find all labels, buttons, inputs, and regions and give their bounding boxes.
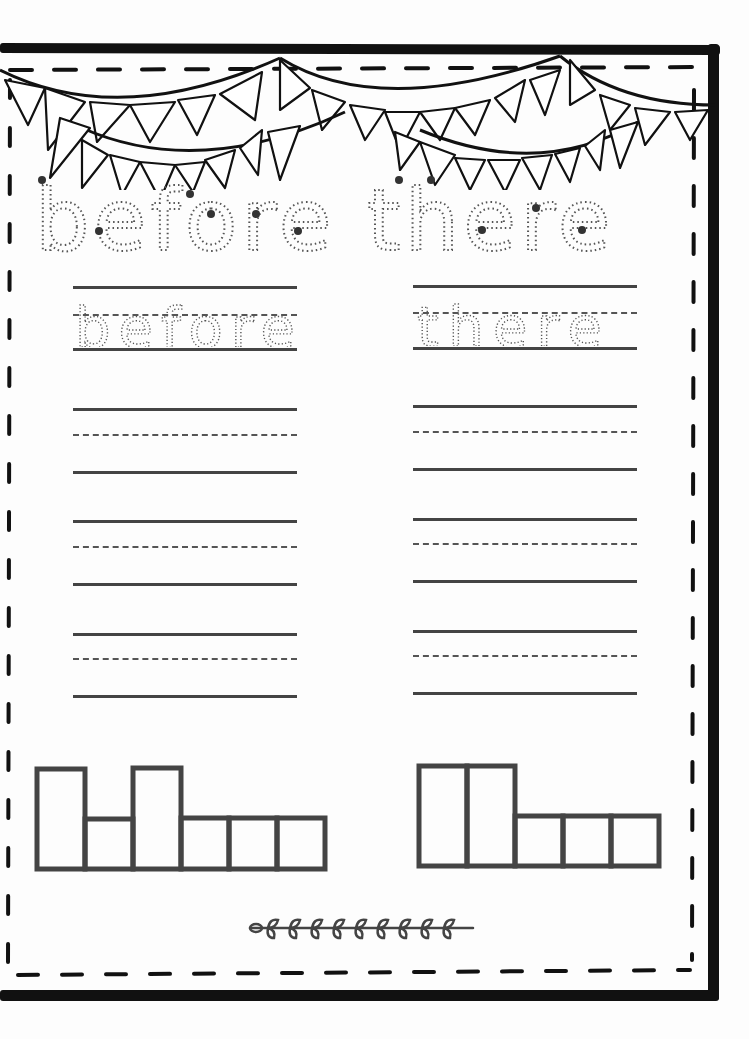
letter-box-tall[interactable] <box>467 766 515 866</box>
trace-base-line <box>73 348 297 351</box>
letter-box-short[interactable] <box>229 818 277 869</box>
trace-word-there: there <box>413 284 637 346</box>
practice-base-line <box>413 580 637 583</box>
practice-top-line <box>73 633 297 636</box>
letter-box-short[interactable] <box>515 816 563 866</box>
trace-title-text: before there <box>35 170 615 268</box>
trace-base-line <box>413 347 637 350</box>
practice-base-line <box>413 692 637 695</box>
letter-box-tall[interactable] <box>133 768 181 869</box>
word-shape-before <box>30 762 335 874</box>
practice-mid-line <box>413 543 637 545</box>
letter-box-short[interactable] <box>563 816 611 866</box>
practice-base-line <box>73 471 297 474</box>
practice-mid-line <box>73 658 297 660</box>
practice-mid-line <box>413 431 637 433</box>
letter-box-short[interactable] <box>277 818 325 869</box>
practice-mid-line <box>413 655 637 657</box>
practice-top-line <box>73 408 297 411</box>
letter-box-short[interactable] <box>85 819 133 869</box>
practice-base-line <box>73 583 297 586</box>
practice-mid-line <box>73 434 297 436</box>
leaf-vine-divider-icon <box>248 912 476 942</box>
practice-top-line <box>413 518 637 521</box>
trace-title: before there <box>30 168 670 268</box>
practice-top-line <box>413 630 637 633</box>
practice-base-line <box>73 695 297 698</box>
letter-box-short[interactable] <box>181 818 229 869</box>
practice-top-line <box>73 520 297 523</box>
svg-text:there: there <box>417 294 602 346</box>
column-before: before <box>73 286 298 706</box>
practice-top-line <box>413 405 637 408</box>
word-shape-there <box>412 760 667 872</box>
svg-text:before: before <box>75 295 295 347</box>
trace-word-before: before <box>73 285 297 347</box>
letter-box-short[interactable] <box>611 816 659 866</box>
frame-bottom-border <box>0 990 719 1001</box>
worksheet-page: before there before <box>0 0 749 1039</box>
letter-box-tall[interactable] <box>37 769 85 869</box>
column-there: there <box>413 285 638 705</box>
practice-mid-line <box>73 546 297 548</box>
letter-box-tall[interactable] <box>419 766 467 866</box>
practice-base-line <box>413 468 637 471</box>
